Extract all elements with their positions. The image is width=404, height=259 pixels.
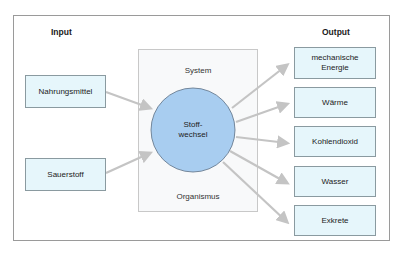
arrow-energie (232, 65, 287, 108)
arrow-sauerstoff (106, 153, 150, 173)
output-label: mechanische Energie (301, 53, 369, 73)
output-box-energie: mechanische Energie (294, 47, 376, 79)
output-box-waerme: Wärme (294, 87, 376, 118)
output-label: Exkrete (321, 216, 348, 226)
arrow-waerme (236, 104, 287, 122)
output-box-wasser: Wasser (294, 166, 376, 197)
input-label: Nahrungsmittel (39, 87, 93, 97)
arrow-wasser (230, 151, 287, 183)
input-label: Sauerstoff (47, 170, 83, 180)
input-box-nahrungsmittel: Nahrungsmittel (25, 75, 106, 108)
arrow-kohlendioxid (236, 137, 287, 143)
output-box-exkrete: Exkrete (294, 205, 376, 236)
arrow-nahrungsmittel (106, 92, 150, 108)
arrow-exkrete (223, 162, 287, 222)
metabolism-label: Stoff- wechsel (168, 120, 218, 140)
output-label: Kohlendioxid (312, 137, 358, 147)
metabolism-line2: wechsel (168, 130, 218, 140)
output-box-kohlendioxid: Kohlendioxid (294, 126, 376, 157)
output-label: Wärme (322, 98, 348, 108)
output-label: Wasser (322, 177, 349, 187)
input-box-sauerstoff: Sauerstoff (25, 158, 106, 191)
metabolism-line1: Stoff- (168, 120, 218, 130)
